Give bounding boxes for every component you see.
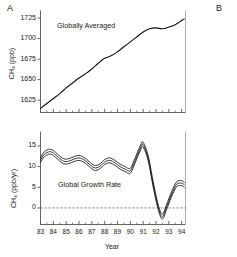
- growth-rate-line-central: [41, 144, 185, 217]
- figure-container: A B CH₄ (ppb) CH₄ (ppb/yr) Year Globally…: [0, 0, 237, 257]
- x-tick-label: 94: [175, 228, 189, 235]
- bottom-y-tick-label: 15: [14, 141, 36, 148]
- growth-rate-line-upper: [41, 142, 185, 215]
- top-y-tick-label: 1725: [8, 14, 36, 21]
- bottom-y-tick-label: 5: [14, 183, 36, 190]
- top-y-tick-label: 1700: [8, 34, 36, 41]
- top-y-tick-label: 1650: [8, 75, 36, 82]
- bottom-y-tick-label: 0: [14, 203, 36, 210]
- top-y-tick-label: 1675: [8, 55, 36, 62]
- bottom-y-tick-label: 10: [14, 162, 36, 169]
- ch4-concentration-line: [41, 19, 185, 109]
- top-y-tick-label: 1625: [8, 96, 36, 103]
